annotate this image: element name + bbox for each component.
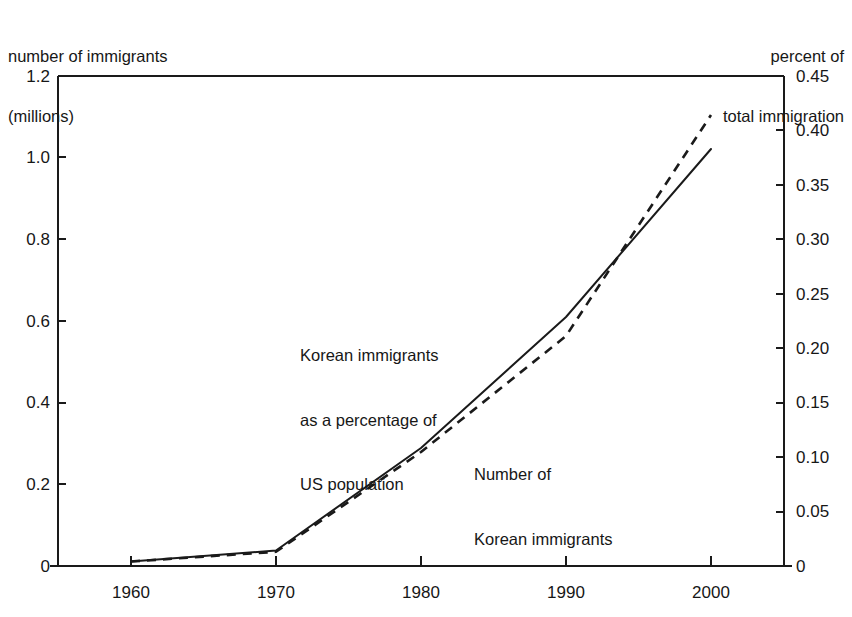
annotation-percentage-line1: Korean immigrants	[300, 345, 438, 367]
annotation-number-line2: Korean immigrants	[474, 529, 612, 551]
chart-figure: number of immigrants (millions) percent …	[0, 0, 852, 617]
annotation-percentage-line3: US population	[300, 474, 438, 496]
annotation-number-line1: Number of	[474, 464, 612, 486]
annotation-percentage-line2: as a percentage of	[300, 410, 438, 432]
x-axis-ticks	[131, 556, 711, 566]
annotation-number: Number of Korean immigrants	[474, 421, 612, 593]
annotation-percentage: Korean immigrants as a percentage of US …	[300, 302, 438, 539]
